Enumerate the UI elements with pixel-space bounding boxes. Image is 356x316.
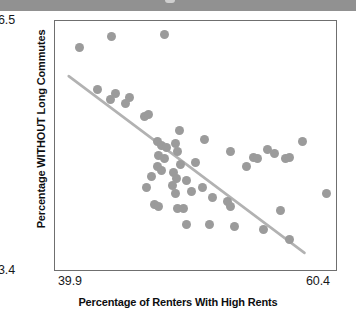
scatter-point (205, 220, 214, 229)
scatter-point (200, 135, 209, 144)
x-axis-tick-max: 60.4 (306, 274, 330, 288)
scatter-point (147, 172, 156, 181)
scatter-point (270, 149, 279, 158)
scatter-point (142, 183, 151, 192)
scatter-point (285, 153, 294, 162)
scatter-point (230, 222, 239, 231)
y-axis-title: Percentage WITHOUT Long Commutes (35, 9, 47, 249)
plot-frame (54, 20, 337, 271)
scatter-point (160, 154, 169, 163)
scatter-point (298, 137, 307, 146)
scatter-point (107, 32, 116, 41)
x-axis-title: Percentage of Renters With High Rents (0, 296, 356, 308)
scatter-point (182, 176, 191, 185)
scatter-point (121, 99, 130, 108)
top-bar-nub (165, 0, 175, 3)
page-top-bar (0, 0, 356, 11)
scatter-point (160, 30, 169, 39)
scatter-point (226, 147, 235, 156)
scatter-point (157, 166, 166, 175)
x-axis-tick-min: 39.9 (58, 274, 82, 288)
scatter-point (171, 189, 180, 198)
y-axis-tick-min: 83.4 (0, 263, 15, 277)
scatter-point (175, 126, 184, 135)
scatter-point (182, 220, 191, 229)
y-axis-tick-max: 96.5 (0, 13, 15, 27)
scatter-chart-figure: 96.5 83.4 39.9 60.4 Percentage WITHOUT L… (0, 11, 356, 316)
scatter-point (276, 206, 285, 215)
plot-area (55, 21, 336, 270)
trend-line (55, 21, 336, 270)
scatter-point (208, 193, 217, 202)
